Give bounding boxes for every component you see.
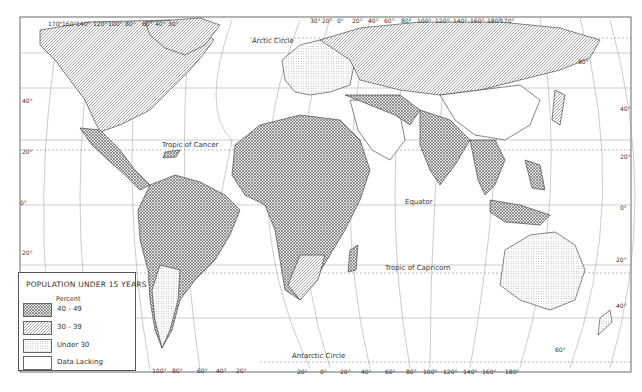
svg-text:20°: 20° — [236, 367, 247, 374]
svg-text:80°: 80° — [578, 58, 589, 65]
svg-text:170°: 170° — [500, 17, 514, 24]
svg-text:100°: 100° — [417, 17, 431, 24]
dotted-swatch — [23, 339, 52, 353]
latitudes-east: 80° 40° 20° 0° 20° 40° 60° — [555, 58, 631, 353]
svg-text:20°: 20° — [22, 148, 33, 155]
crosshatch-swatch — [23, 303, 52, 317]
svg-text:60°: 60° — [385, 368, 396, 375]
svg-text:120°: 120° — [93, 20, 107, 27]
region-indonesia — [490, 200, 550, 225]
svg-text:80°: 80° — [401, 17, 412, 24]
svg-text:80°: 80° — [172, 367, 183, 374]
equator-label: Equator — [405, 198, 433, 206]
region-philippines — [525, 160, 545, 190]
svg-text:20°: 20° — [620, 153, 631, 160]
svg-text:0°: 0° — [320, 368, 327, 375]
svg-text:0°: 0° — [337, 17, 344, 24]
region-new-zealand — [598, 310, 612, 335]
svg-text:60°: 60° — [555, 346, 566, 353]
svg-text:40°: 40° — [616, 302, 627, 309]
map-legend: POPULATION UNDER 15 YEARS Percent 40 - 4… — [18, 272, 136, 371]
svg-text:160°: 160° — [482, 368, 496, 375]
region-south-america — [138, 175, 240, 348]
legend-title: POPULATION UNDER 15 YEARS — [26, 280, 147, 289]
svg-text:100°: 100° — [152, 367, 166, 374]
region-southeast-asia — [470, 140, 505, 195]
svg-text:40°: 40° — [216, 367, 227, 374]
svg-text:80°: 80° — [125, 20, 136, 27]
svg-text:40°: 40° — [22, 97, 33, 104]
legend-item-40-49: 40 - 49 — [23, 303, 133, 317]
arctic-circle-label: Arctic Circle — [252, 37, 294, 45]
legend-subtitle: Percent — [56, 295, 80, 303]
region-australia — [500, 232, 585, 310]
top-longitudes-west: 170° 160° 140° 120° 100° 80° 60° 40° 30° — [48, 20, 179, 27]
svg-text:160°: 160° — [62, 20, 76, 27]
svg-text:140°: 140° — [453, 17, 467, 24]
svg-text:30°: 30° — [168, 20, 179, 27]
svg-text:160°: 160° — [470, 17, 484, 24]
svg-text:60°: 60° — [142, 20, 153, 27]
region-caribbean — [163, 150, 180, 158]
svg-text:140°: 140° — [463, 368, 477, 375]
svg-text:80°: 80° — [406, 368, 417, 375]
region-ussr — [320, 22, 600, 95]
svg-text:120°: 120° — [443, 368, 457, 375]
svg-text:30°: 30° — [310, 17, 321, 24]
svg-text:60°: 60° — [197, 367, 208, 374]
latitudes-west: 40° 20° 0° 20° — [20, 97, 33, 256]
legend-item-30-39: 30 - 39 — [23, 321, 133, 335]
svg-text:40°: 40° — [361, 368, 372, 375]
svg-text:40°: 40° — [368, 17, 379, 24]
region-japan — [552, 90, 565, 125]
svg-text:60°: 60° — [384, 17, 395, 24]
svg-text:20°: 20° — [352, 17, 363, 24]
blank-swatch — [23, 356, 52, 370]
bottom-longitudes-east: 20° 0° 20° 40° 60° 80° 100° 120° 140° 16… — [297, 368, 519, 375]
region-madagascar — [348, 245, 358, 272]
svg-text:20°: 20° — [22, 249, 33, 256]
svg-text:40°: 40° — [620, 105, 631, 112]
svg-text:100°: 100° — [423, 368, 437, 375]
svg-text:0°: 0° — [20, 199, 27, 206]
tropic-cancer-label: Tropic of Cancer — [161, 141, 218, 149]
bottom-longitudes-west: 100° 80° 60° 40° 20° — [152, 367, 247, 374]
legend-item-data-lacking: Data Lacking — [23, 356, 133, 370]
svg-text:20°: 20° — [616, 256, 627, 263]
svg-text:120°: 120° — [435, 17, 449, 24]
svg-text:180°: 180° — [505, 368, 519, 375]
diagonal-swatch — [23, 321, 52, 335]
svg-text:140°: 140° — [76, 20, 90, 27]
region-central-america — [80, 128, 150, 190]
antarctic-circle-label: Antarctic Circle — [292, 352, 345, 360]
tropic-capricorn-label: Tropic of Capricorn — [384, 264, 450, 272]
svg-text:20°: 20° — [340, 368, 351, 375]
svg-text:20°: 20° — [322, 17, 333, 24]
svg-text:0°: 0° — [620, 204, 627, 211]
svg-text:20°: 20° — [297, 368, 308, 375]
region-southern-cone — [152, 265, 180, 348]
svg-text:100°: 100° — [108, 20, 122, 27]
svg-text:40°: 40° — [155, 20, 166, 27]
svg-text:170°: 170° — [48, 20, 62, 27]
legend-item-under-30: Under 30 — [23, 339, 133, 353]
